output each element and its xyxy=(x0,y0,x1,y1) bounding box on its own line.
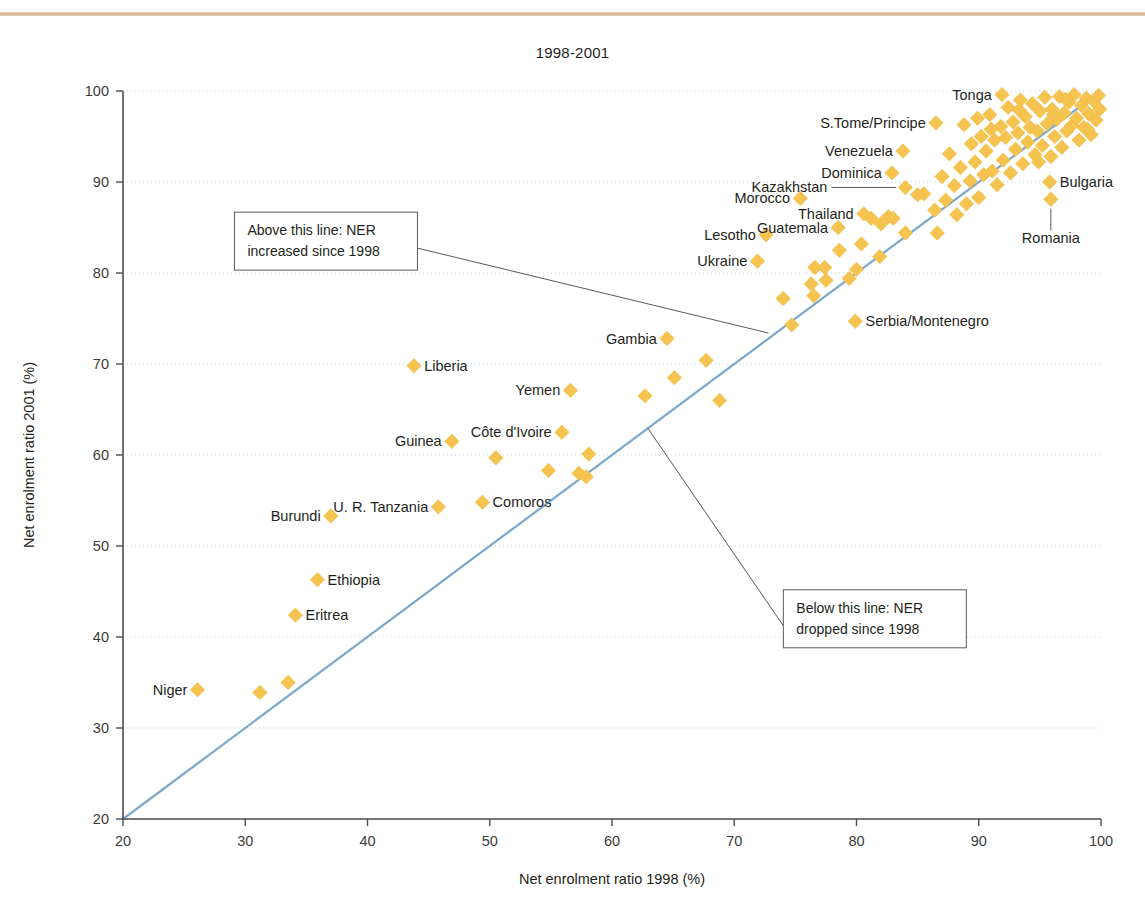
data-point xyxy=(970,111,984,125)
data-point xyxy=(712,393,726,407)
data-point xyxy=(898,226,912,240)
data-point xyxy=(996,153,1010,167)
data-point xyxy=(1008,142,1022,156)
data-point xyxy=(1001,100,1015,114)
point-label-ukraine: Ukraine xyxy=(697,253,747,269)
point-label-s-tome-principe: S.Tome/Principe xyxy=(820,115,926,131)
data-point xyxy=(939,193,953,207)
data-point xyxy=(776,291,790,305)
data-point-eritrea xyxy=(288,608,302,622)
data-point xyxy=(281,675,295,689)
point-label-guatemala: Guatemala xyxy=(757,220,829,236)
annotation-box-above-line-note xyxy=(234,212,417,270)
data-point xyxy=(983,107,997,121)
x-tick-label-70: 70 xyxy=(726,833,742,849)
data-point xyxy=(541,463,555,477)
data-point-tonga xyxy=(995,87,1009,101)
y-tick-label-70: 70 xyxy=(93,356,109,372)
y-tick-label-50: 50 xyxy=(93,538,109,554)
y-tick-label-40: 40 xyxy=(93,629,109,645)
data-point xyxy=(1003,166,1017,180)
data-point-guatemala xyxy=(831,220,845,234)
x-tick-label-80: 80 xyxy=(848,833,864,849)
annotation-text-below-line-note-line-2: dropped since 1998 xyxy=(796,621,919,637)
data-point xyxy=(950,208,964,222)
data-point-ukraine xyxy=(750,254,764,268)
point-label-comoros: Comoros xyxy=(493,494,552,510)
point-label-bulgaria: Bulgaria xyxy=(1060,174,1114,190)
data-point xyxy=(963,174,977,188)
point-label-niger: Niger xyxy=(153,682,188,698)
data-point xyxy=(979,144,993,158)
point-label-thailand: Thailand xyxy=(798,206,854,222)
data-point xyxy=(667,370,681,384)
data-point xyxy=(942,147,956,161)
x-tick-label-20: 20 xyxy=(115,833,131,849)
chart-page: 1998-2001 203040506070809010020304050607… xyxy=(0,0,1145,921)
data-point-niger xyxy=(190,683,204,697)
data-point xyxy=(972,190,986,204)
y-tick-label-90: 90 xyxy=(93,174,109,190)
data-point xyxy=(832,243,846,257)
data-point xyxy=(990,178,1004,192)
data-point xyxy=(854,237,868,251)
data-point xyxy=(947,178,961,192)
data-point-c-te-d-ivoire xyxy=(555,425,569,439)
y-tick-label-30: 30 xyxy=(93,720,109,736)
point-label-eritrea: Eritrea xyxy=(306,607,350,623)
data-point xyxy=(968,155,982,169)
point-label-liberia: Liberia xyxy=(424,358,468,374)
point-label-tonga: Tonga xyxy=(952,87,992,103)
point-label-lesotho: Lesotho xyxy=(704,227,756,243)
annotation-box-below-line-note xyxy=(783,590,966,648)
x-tick-label-50: 50 xyxy=(482,833,498,849)
data-point xyxy=(1016,157,1030,171)
data-point xyxy=(1055,140,1069,154)
data-point-romania xyxy=(1044,192,1058,206)
y-tick-label-60: 60 xyxy=(93,447,109,463)
data-point xyxy=(253,685,267,699)
x-tick-label-100: 100 xyxy=(1089,833,1113,849)
point-label-kazakhstan: Kazakhstan xyxy=(752,179,828,195)
data-point-bulgaria xyxy=(1042,175,1056,189)
data-point-comoros xyxy=(475,495,489,509)
data-point-dominica xyxy=(885,166,899,180)
data-point-venezuela xyxy=(896,144,910,158)
x-tick-label-60: 60 xyxy=(604,833,620,849)
point-label-dominica: Dominica xyxy=(821,165,882,181)
point-label-u-r-tanzania: U. R. Tanzania xyxy=(333,499,429,515)
data-point xyxy=(1038,90,1052,104)
y-tick-label-20: 20 xyxy=(93,811,109,827)
reference-line xyxy=(123,91,1101,819)
data-point-s-tome-principe xyxy=(929,116,943,130)
x-tick-label-90: 90 xyxy=(971,833,987,849)
data-point xyxy=(953,160,967,174)
data-point xyxy=(928,203,942,217)
point-label-ethiopia: Ethiopia xyxy=(328,572,381,588)
data-point-kazakhstan xyxy=(898,180,912,194)
data-point xyxy=(489,451,503,465)
point-label-romania: Romania xyxy=(1022,230,1081,246)
data-point xyxy=(930,226,944,240)
annotation-text-above-line-note-line-1: Above this line: NER xyxy=(247,222,375,238)
point-label-yemen: Yemen xyxy=(516,382,561,398)
data-point xyxy=(582,447,596,461)
data-point-gambia xyxy=(660,331,674,345)
x-axis-title: Net enrolment ratio 1998 (%) xyxy=(519,871,705,887)
data-point-guinea xyxy=(445,434,459,448)
data-point-u-r-tanzania xyxy=(431,500,445,514)
data-point xyxy=(819,273,833,287)
data-point xyxy=(699,353,713,367)
point-label-serbia-montenegro: Serbia/Montenegro xyxy=(865,313,988,329)
data-point xyxy=(638,389,652,403)
point-label-guinea: Guinea xyxy=(395,433,443,449)
data-point xyxy=(1020,135,1034,149)
annotation-text-below-line-note-line-1: Below this line: NER xyxy=(796,600,923,616)
point-label-gambia: Gambia xyxy=(606,331,658,347)
reference-line-group xyxy=(123,91,1101,819)
data-point xyxy=(804,277,818,291)
data-point xyxy=(957,117,971,131)
data-point-serbia-montenegro xyxy=(848,314,862,328)
annotation-text-above-line-note-line-2: increased since 1998 xyxy=(247,243,380,259)
data-point-ethiopia xyxy=(310,572,324,586)
